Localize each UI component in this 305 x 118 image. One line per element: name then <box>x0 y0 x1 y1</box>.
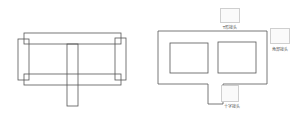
cross-joint-box[interactable] <box>221 85 239 102</box>
bottom-beam <box>24 74 121 85</box>
t-joint-label: T形接头 <box>218 24 242 30</box>
corner-joint-label: 角部接头 <box>268 46 292 52</box>
left-figure <box>18 33 126 106</box>
left-opening <box>170 43 208 73</box>
diagram-canvas <box>0 0 305 118</box>
corner-joint-box[interactable] <box>270 28 290 44</box>
cross-joint-label: 十字接头 <box>220 103 244 109</box>
center-post <box>67 44 78 106</box>
t-joint-box[interactable] <box>220 8 240 23</box>
right-opening <box>218 42 256 73</box>
top-beam <box>24 33 121 44</box>
right-figure <box>158 31 267 104</box>
